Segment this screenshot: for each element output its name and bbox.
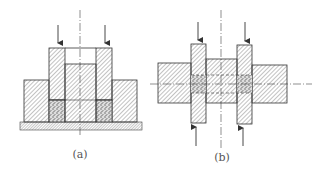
panel-label-a: (a) [72, 148, 87, 161]
die-left-b [158, 63, 191, 103]
panel-label-b: (b) [214, 151, 230, 164]
core-rod [65, 64, 96, 122]
upper-punch-left [49, 48, 65, 100]
die-left [24, 80, 49, 122]
core-rod-b [206, 59, 237, 103]
die-right [112, 80, 137, 122]
diagram-canvas [0, 0, 330, 178]
panel-b [150, 10, 312, 150]
powder-right [96, 100, 112, 122]
base-plate [20, 122, 142, 130]
panel-a [20, 10, 142, 137]
upper-punch-right [96, 48, 112, 100]
powder-left [49, 100, 65, 122]
